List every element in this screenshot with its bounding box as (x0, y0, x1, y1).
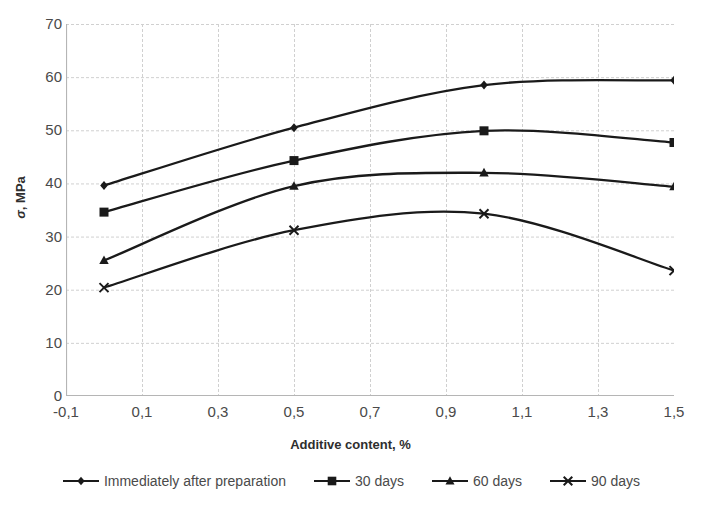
y-tick-label: 60 (28, 69, 62, 84)
x-tick-label: 0,1 (112, 404, 172, 419)
legend-item-1[interactable]: Immediately after preparation (61, 473, 286, 489)
data-point-diamond (480, 81, 488, 90)
legend-item-label: Immediately after preparation (104, 473, 286, 489)
legend-item-4[interactable]: 90 days (548, 473, 640, 489)
x-tick-label: 0,3 (188, 404, 248, 419)
chart-legend: Immediately after preparation30 days60 d… (0, 473, 701, 489)
x-axis-tick-labels: -0,10,10,30,50,70,91,11,31,5 (66, 404, 674, 430)
series-4 (100, 209, 675, 292)
data-point-square (480, 126, 489, 135)
legend-marker-cross-icon (548, 473, 588, 489)
series-line (104, 173, 674, 261)
y-tick-label: 10 (28, 335, 62, 350)
data-point-diamond (670, 76, 674, 85)
chart-series-layer (66, 24, 674, 396)
chart-container: σ, MPa 010203040506070 -0,10,10,30,50,70… (0, 0, 701, 511)
legend-item-label: 60 days (473, 473, 522, 489)
x-tick-label: 1,3 (568, 404, 628, 419)
series-2 (100, 126, 675, 216)
legend-marker-diamond-icon (61, 473, 101, 489)
y-axis-tick-labels: 010203040506070 (22, 0, 62, 420)
data-point-square (670, 138, 675, 147)
x-tick-label: 1,1 (492, 404, 552, 419)
data-point-square (290, 156, 299, 165)
data-point-diamond (100, 181, 108, 190)
data-point-square (328, 477, 337, 486)
legend-item-3[interactable]: 60 days (430, 473, 522, 489)
data-point-square (100, 208, 109, 217)
legend-item-2[interactable]: 30 days (312, 473, 404, 489)
legend-marker-square-icon (312, 473, 352, 489)
x-axis-title: Additive content, % (0, 437, 701, 452)
series-line (104, 80, 674, 185)
legend-marker-triangle-icon (430, 473, 470, 489)
x-tick-label: 0,9 (416, 404, 476, 419)
legend-item-label: 30 days (355, 473, 404, 489)
y-tick-label: 20 (28, 282, 62, 297)
series-line (104, 130, 674, 212)
x-tick-label: 0,5 (264, 404, 324, 419)
data-point-diamond (77, 477, 84, 486)
plot-area (66, 24, 674, 396)
y-tick-label: 0 (28, 388, 62, 403)
y-tick-label: 70 (28, 16, 62, 31)
y-tick-label: 50 (28, 122, 62, 137)
data-point-diamond (290, 123, 298, 132)
legend-item-label: 90 days (591, 473, 640, 489)
y-tick-label: 40 (28, 175, 62, 190)
x-tick-label: -0,1 (36, 404, 96, 419)
x-tick-label: 0,7 (340, 404, 400, 419)
x-tick-label: 1,5 (644, 404, 701, 419)
y-tick-label: 30 (28, 229, 62, 244)
